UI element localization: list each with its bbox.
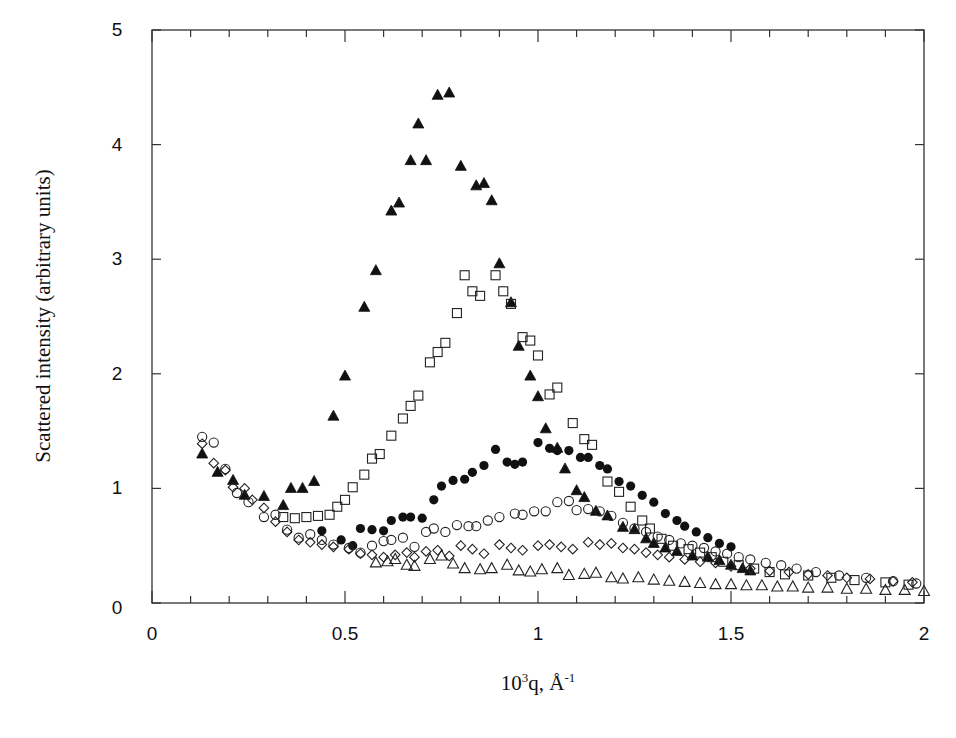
- marker-open-triangle: [880, 584, 891, 594]
- marker-filled-circle: [672, 516, 681, 525]
- marker-filled-circle: [356, 524, 365, 533]
- marker-open-triangle: [617, 573, 628, 583]
- marker-open-square: [626, 502, 635, 511]
- marker-filled-triangle: [540, 423, 551, 433]
- marker-filled-circle: [418, 514, 427, 523]
- data-points: [197, 87, 930, 596]
- marker-open-triangle: [590, 567, 601, 577]
- marker-filled-circle: [533, 438, 542, 447]
- marker-filled-triangle: [478, 178, 489, 188]
- marker-open-diamond: [583, 537, 593, 547]
- marker-filled-circle: [692, 527, 701, 536]
- marker-open-diamond: [533, 541, 543, 551]
- marker-filled-circle: [680, 522, 689, 531]
- marker-open-triangle: [756, 580, 767, 590]
- marker-open-circle: [398, 533, 407, 542]
- marker-open-circle: [429, 524, 438, 533]
- marker-open-circle: [232, 488, 241, 497]
- marker-open-circle: [572, 506, 581, 515]
- marker-open-triangle: [606, 572, 617, 582]
- marker-open-diamond: [641, 548, 651, 558]
- marker-open-square: [615, 487, 624, 496]
- marker-open-diamond: [495, 540, 505, 550]
- marker-open-diamond: [595, 540, 605, 550]
- marker-filled-circle: [649, 498, 658, 507]
- marker-filled-triangle: [617, 521, 628, 531]
- x-tick-label: 2: [919, 623, 930, 644]
- marker-filled-triangle: [309, 476, 320, 486]
- marker-open-triangle: [787, 581, 798, 591]
- marker-open-circle: [584, 504, 593, 513]
- marker-filled-circle: [317, 526, 326, 535]
- marker-open-circle: [541, 507, 550, 516]
- y-tick-label: 0: [112, 597, 123, 618]
- marker-open-diamond: [259, 503, 269, 513]
- marker-filled-circle: [518, 457, 527, 466]
- marker-open-triangle: [861, 583, 872, 593]
- x-tick-label: 0.5: [332, 623, 358, 644]
- marker-open-square: [460, 271, 469, 280]
- marker-open-circle: [441, 527, 450, 536]
- marker-filled-triangle: [560, 463, 571, 473]
- marker-filled-circle: [429, 495, 438, 504]
- marker-filled-triangle: [394, 197, 405, 207]
- axis-ticks: [152, 30, 924, 603]
- marker-open-square: [387, 431, 396, 440]
- marker-filled-triangle: [197, 448, 208, 458]
- marker-open-triangle: [536, 564, 547, 574]
- marker-open-square: [433, 348, 442, 357]
- marker-open-diamond: [518, 545, 528, 555]
- marker-filled-circle: [379, 526, 388, 535]
- marker-open-circle: [777, 561, 786, 570]
- marker-filled-triangle: [505, 297, 516, 307]
- marker-open-triangle: [563, 569, 574, 579]
- y-axis-tick-labels: 012345: [112, 19, 123, 618]
- marker-open-triangle: [424, 553, 435, 563]
- marker-filled-circle: [468, 468, 477, 477]
- marker-open-triangle: [664, 575, 675, 585]
- marker-open-circle: [564, 496, 573, 505]
- marker-open-square: [406, 401, 415, 410]
- marker-open-triangle: [475, 564, 486, 574]
- marker-filled-circle: [553, 446, 562, 455]
- marker-open-square: [491, 271, 500, 280]
- marker-open-triangle: [552, 563, 563, 573]
- marker-filled-circle: [448, 476, 457, 485]
- marker-open-diamond: [468, 544, 478, 554]
- marker-filled-circle: [387, 516, 396, 525]
- marker-filled-circle: [479, 461, 488, 470]
- marker-filled-triangle: [413, 118, 424, 128]
- marker-open-triangle: [803, 582, 814, 592]
- marker-filled-circle: [564, 446, 573, 455]
- marker-filled-triangle: [328, 410, 339, 420]
- marker-filled-triangle: [340, 370, 351, 380]
- marker-open-diamond: [556, 542, 566, 552]
- marker-open-triangle: [710, 579, 721, 589]
- marker-open-square: [398, 414, 407, 423]
- marker-open-circle: [495, 512, 504, 521]
- marker-open-square: [603, 477, 612, 486]
- marker-filled-circle: [437, 482, 446, 491]
- marker-open-triangle: [525, 566, 536, 576]
- marker-open-circle: [209, 438, 218, 447]
- marker-open-square: [414, 391, 423, 400]
- marker-filled-triangle: [494, 258, 505, 268]
- marker-open-triangle: [448, 558, 459, 568]
- marker-filled-triangle: [421, 155, 432, 165]
- marker-filled-circle: [367, 525, 376, 534]
- marker-open-square: [568, 419, 577, 428]
- marker-open-circle: [483, 516, 492, 525]
- marker-filled-circle: [726, 542, 735, 551]
- y-axis-title: Scattered intensity (arbitrary units): [31, 169, 55, 462]
- marker-open-triangle: [822, 582, 833, 592]
- x-axis-tick-labels: 00.511.52: [147, 623, 930, 644]
- marker-filled-triangle: [455, 160, 466, 170]
- marker-open-square: [313, 511, 322, 520]
- marker-open-circle: [198, 432, 207, 441]
- marker-open-circle: [553, 498, 562, 507]
- y-tick-label: 1: [112, 477, 123, 498]
- marker-open-triangle: [772, 581, 783, 591]
- marker-open-circle: [688, 541, 697, 550]
- marker-open-circle: [367, 541, 376, 550]
- series-open-triangle: [370, 550, 929, 596]
